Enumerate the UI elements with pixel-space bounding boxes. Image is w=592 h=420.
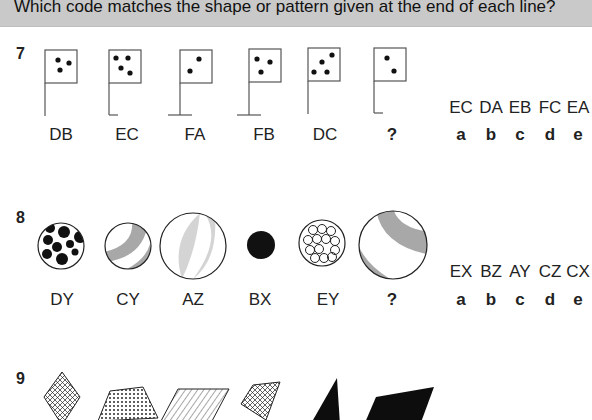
crosshatch-quadrilateral bbox=[241, 382, 280, 420]
striped-parallelogram bbox=[161, 389, 229, 420]
black-parallelogram bbox=[364, 387, 434, 420]
dotted-trapezoid bbox=[98, 387, 158, 420]
black-triangle bbox=[313, 378, 340, 420]
question-9-figures bbox=[0, 0, 592, 420]
crosshatch-diamond bbox=[44, 372, 80, 420]
